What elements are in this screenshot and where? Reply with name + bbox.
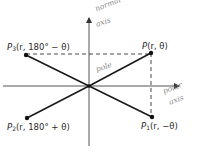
point-p2 xyxy=(25,116,29,120)
label-p: P(r, θ) xyxy=(142,42,168,51)
label-p2: P2(r, 180° + θ) xyxy=(7,123,70,132)
polar-symmetry-diagram: P(r, θ) P3(r, 180° − θ) P2(r, 180° + θ) … xyxy=(0,0,200,154)
point-p xyxy=(149,51,153,55)
point-p3 xyxy=(24,53,28,57)
label-p3: P3(r, 180° − θ) xyxy=(7,43,70,52)
segment-pole-to-p3 xyxy=(26,55,89,86)
point-p1 xyxy=(150,115,154,119)
point-coords: (r, −θ) xyxy=(150,121,178,131)
segment-pole-to-p1 xyxy=(89,86,152,117)
point-coords: (r, θ) xyxy=(147,41,168,51)
point-coords: (r, 180° + θ) xyxy=(16,122,70,132)
pole-point xyxy=(87,84,91,88)
label-p1: P1(r, −θ) xyxy=(141,122,178,131)
segment-pole-to-p2 xyxy=(27,86,89,118)
point-coords: (r, 180° − θ) xyxy=(16,42,70,52)
